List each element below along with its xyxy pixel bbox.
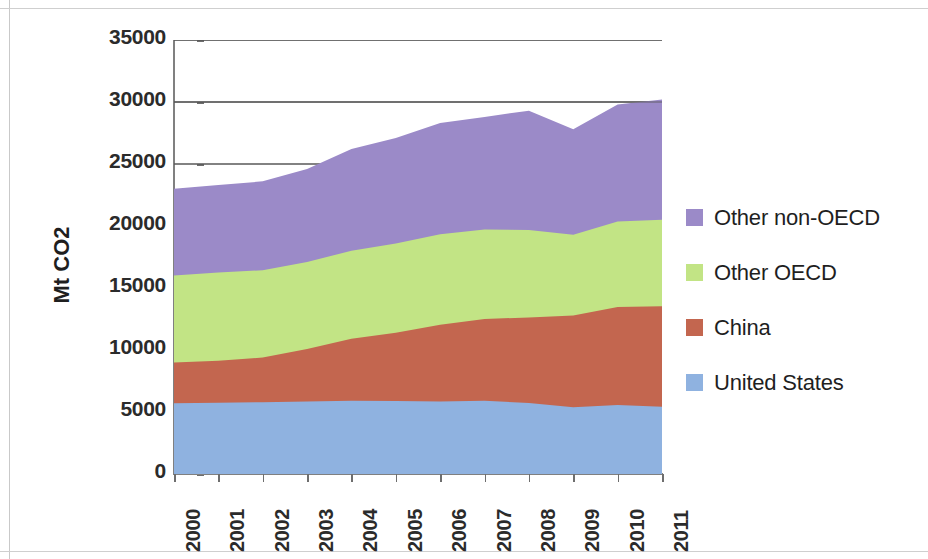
y-tick-label: 5000 (46, 397, 166, 421)
x-tick-label: 2009 (581, 482, 604, 552)
legend-item[interactable]: United States (686, 355, 922, 410)
x-tick-mark (618, 474, 620, 482)
x-tick-mark (529, 474, 531, 482)
legend-item[interactable]: China (686, 300, 922, 355)
x-tick-mark (351, 474, 353, 482)
legend-swatch-icon (686, 209, 703, 226)
y-tick-label: 0 (46, 459, 166, 483)
x-tick-mark (485, 474, 487, 482)
area-series (174, 401, 662, 474)
chart-figure: Mt CO2 350003000025000200001500010000500… (0, 0, 928, 559)
y-tick-label: 35000 (46, 25, 166, 49)
legend-label: United States (714, 370, 843, 396)
y-tick-label: 20000 (46, 211, 166, 235)
y-tick-label: 25000 (46, 149, 166, 173)
x-tick-label: 2002 (271, 482, 294, 552)
y-tick-label: 15000 (46, 273, 166, 297)
x-tick-label: 2011 (670, 482, 693, 552)
x-tick-mark (396, 474, 398, 482)
x-tick-label: 2001 (226, 482, 249, 552)
legend-swatch-icon (686, 374, 703, 391)
y-tick-label: 10000 (46, 335, 166, 359)
legend-label: Other OECD (714, 260, 837, 286)
stacked-area-plot (174, 40, 662, 474)
x-tick-label: 2007 (493, 482, 516, 552)
x-tick-label: 2004 (359, 482, 382, 552)
x-tick-mark (174, 474, 176, 482)
legend-label: Other non-OECD (714, 205, 880, 231)
y-axis-ticks: 35000300002500020000150001000050000 (30, 0, 166, 559)
y-tick-label: 30000 (46, 87, 166, 111)
legend-item[interactable]: Other non-OECD (686, 190, 922, 245)
x-tick-mark (307, 474, 309, 482)
scan-edge-left (9, 0, 10, 559)
x-tick-mark (218, 474, 220, 482)
legend-item[interactable]: Other OECD (686, 245, 922, 300)
plot-area (174, 40, 662, 474)
legend-label: China (714, 315, 770, 341)
legend-swatch-icon (686, 264, 703, 281)
x-tick-mark (440, 474, 442, 482)
x-tick-mark (573, 474, 575, 482)
x-tick-label: 2006 (448, 482, 471, 552)
x-axis-ticks: 2000200120022003200420052006200720082009… (174, 474, 662, 559)
x-tick-label: 2010 (626, 482, 649, 552)
x-tick-label: 2003 (315, 482, 338, 552)
x-tick-label: 2008 (537, 482, 560, 552)
chart-legend: Other non-OECDOther OECDChinaUnited Stat… (686, 190, 922, 410)
x-tick-mark (662, 474, 664, 482)
x-tick-label: 2005 (404, 482, 427, 552)
x-tick-label: 2000 (182, 482, 205, 552)
x-tick-mark (263, 474, 265, 482)
legend-swatch-icon (686, 319, 703, 336)
